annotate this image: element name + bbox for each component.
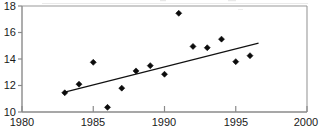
value-axis-labels: 10 12 14 16 18 bbox=[4, 0, 16, 118]
year-tick-label: 1995 bbox=[224, 116, 248, 128]
trend-line bbox=[65, 43, 259, 92]
chart-figure: 10 12 14 16 18 1980 1985 1990 1995 2000 bbox=[0, 0, 325, 133]
data-point bbox=[204, 45, 210, 51]
year-axis-ticks bbox=[22, 106, 307, 112]
value-tick-label: 12 bbox=[4, 79, 16, 91]
value-tick-label: 18 bbox=[4, 0, 16, 12]
chart-canvas: 10 12 14 16 18 1980 1985 1990 1995 2000 bbox=[0, 0, 325, 133]
year-tick-label: 1980 bbox=[10, 116, 34, 128]
data-point bbox=[162, 71, 168, 77]
value-tick-label: 14 bbox=[4, 53, 16, 65]
data-point bbox=[119, 85, 125, 91]
value-tick-label: 16 bbox=[4, 26, 16, 38]
data-point bbox=[247, 53, 253, 59]
data-point bbox=[62, 90, 68, 96]
year-tick-label: 1990 bbox=[152, 116, 176, 128]
scan-artifact-top bbox=[42, 0, 308, 10]
data-point bbox=[219, 36, 225, 42]
data-point bbox=[190, 43, 196, 49]
year-tick-label: 2000 bbox=[294, 116, 318, 128]
data-point-group bbox=[62, 10, 253, 110]
data-point bbox=[105, 104, 111, 110]
data-point bbox=[76, 81, 82, 87]
trend-line-group bbox=[65, 43, 259, 92]
data-point bbox=[233, 59, 239, 65]
year-tick-label: 1985 bbox=[81, 116, 105, 128]
data-point bbox=[90, 59, 96, 65]
data-point bbox=[147, 63, 153, 69]
year-axis-labels: 1980 1985 1990 1995 2000 bbox=[10, 116, 318, 128]
data-point bbox=[176, 10, 182, 16]
